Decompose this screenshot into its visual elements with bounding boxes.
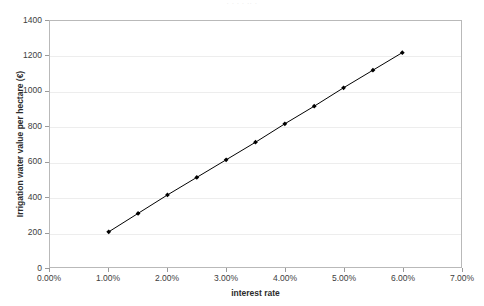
x-axis-title: interest rate — [49, 288, 462, 298]
y-tick-label: 1400 — [0, 16, 42, 25]
chart-figure: · · · · ·· · Irrigation water value per … — [0, 0, 484, 306]
y-tick-mark — [45, 20, 49, 21]
y-tick-mark — [45, 197, 49, 198]
y-tick-label: 600 — [0, 157, 42, 166]
data-point-marker — [224, 157, 229, 162]
y-tick-mark — [45, 233, 49, 234]
x-tick-label: 7.00% — [439, 273, 484, 283]
x-tick-label: 2.00% — [144, 273, 190, 283]
y-tick-label: 0 — [0, 264, 42, 273]
x-tick-label: 1.00% — [85, 273, 131, 283]
data-point-marker — [106, 229, 111, 234]
data-point-marker — [400, 50, 405, 55]
x-tick-mark — [167, 268, 168, 272]
data-point-marker — [253, 140, 258, 145]
y-tick-mark — [45, 162, 49, 163]
x-tick-mark — [226, 268, 227, 272]
data-point-marker — [165, 193, 170, 198]
data-point-marker — [282, 121, 287, 126]
y-tick-label: 1000 — [0, 86, 42, 95]
x-tick-mark — [403, 268, 404, 272]
x-tick-label: 4.00% — [262, 273, 308, 283]
x-tick-mark — [108, 268, 109, 272]
data-series-line — [50, 21, 461, 267]
x-tick-label: 3.00% — [203, 273, 249, 283]
y-tick-mark — [45, 55, 49, 56]
x-tick-label: 0.00% — [26, 273, 72, 283]
data-point-marker — [312, 104, 317, 109]
x-tick-label: 6.00% — [380, 273, 426, 283]
y-tick-label: 800 — [0, 122, 42, 131]
y-tick-mark — [45, 91, 49, 92]
x-tick-label: 5.00% — [321, 273, 367, 283]
data-point-marker — [136, 211, 141, 216]
y-tick-label: 1200 — [0, 51, 42, 60]
data-point-marker — [341, 85, 346, 90]
cropped-caption-remnant: · · · · ·· · — [0, 0, 484, 7]
x-tick-mark — [49, 268, 50, 272]
plot-area — [49, 20, 462, 268]
data-point-marker — [194, 175, 199, 180]
y-tick-mark — [45, 126, 49, 127]
x-tick-mark — [344, 268, 345, 272]
data-point-marker — [371, 68, 376, 73]
x-tick-mark — [462, 268, 463, 272]
y-tick-label: 200 — [0, 228, 42, 237]
y-tick-label: 400 — [0, 193, 42, 202]
x-tick-mark — [285, 268, 286, 272]
